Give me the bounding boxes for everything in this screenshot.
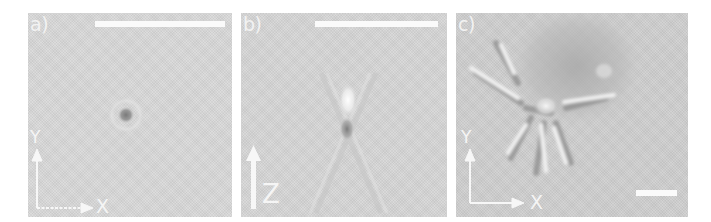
axis-label-y: Y — [461, 129, 471, 146]
scale-bar — [315, 21, 438, 27]
xy-axes-icon — [465, 149, 524, 208]
xy-axes-icon — [32, 149, 93, 213]
panel-c: c) Y X — [456, 13, 688, 217]
axis-label-z: Z — [262, 181, 280, 207]
panel-a: a) Y X — [28, 13, 232, 217]
cell-core — [533, 95, 559, 117]
bright-spot — [339, 83, 357, 117]
axis-label-x: X — [530, 193, 543, 212]
z-axis-arrow-icon — [246, 145, 261, 209]
particle-spot — [117, 106, 135, 124]
axis-label-x: X — [96, 197, 109, 216]
panel-label-c: c) — [458, 13, 475, 35]
axis-label-y: Y — [30, 129, 40, 146]
panel-label-b: b) — [243, 13, 261, 35]
scale-bar — [95, 21, 225, 27]
panel-b: b) Z — [241, 13, 447, 217]
panel-a-image — [28, 13, 232, 217]
panel-label-a: a) — [30, 13, 48, 35]
panel-c-image — [456, 13, 688, 217]
scale-bar — [636, 190, 677, 196]
dark-spot — [339, 116, 355, 142]
